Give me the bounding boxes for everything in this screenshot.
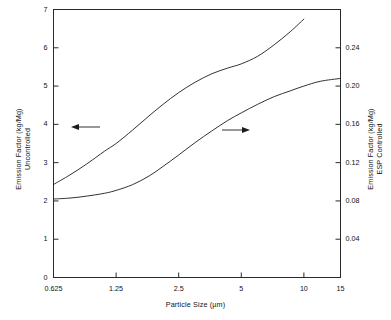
tick-label-left-0: 0 [20,273,48,282]
axes-box [54,10,341,278]
tick-label-right-4: 0.20 [346,81,360,90]
tick-label-bottom-0: 0.625 [34,284,74,293]
tick-label-bottom-4: 10 [284,284,324,293]
right-axis-ticks [336,48,341,239]
tick-label-bottom-5: 15 [321,284,361,293]
series-line-esp-controlled [54,78,341,199]
right-y-axis-title: Emission Factor (kg/Mg)ESP Controlled [366,74,384,224]
emission-factor-chart: 01234567 0.040.080.120.160.200.24 0.6251… [0,0,391,320]
series-line-uncontrolled [54,19,304,184]
tick-label-right-1: 0.08 [346,196,360,205]
tick-label-right-5: 0.24 [346,43,360,52]
tick-label-right-2: 0.12 [346,158,360,167]
tick-label-bottom-1: 1.25 [96,284,136,293]
tick-label-left-1: 1 [20,234,48,243]
tick-label-right-0: 0.04 [346,234,360,243]
bottom-axis-ticks [54,273,341,278]
left-y-axis-title: Emission Factor (kg/Mg)Uncontrolled [14,74,32,224]
tick-label-bottom-3: 5 [221,284,261,293]
uncontrolled-arrow-icon [71,124,100,130]
tick-label-left-6: 6 [20,43,48,52]
x-axis-title: Particle Size (µm) [0,300,391,309]
tick-label-left-7: 7 [20,5,48,14]
plot-frame [54,10,341,278]
tick-label-right-3: 0.16 [346,119,360,128]
tick-label-bottom-2: 2.5 [159,284,199,293]
plot-canvas [0,0,391,320]
left-axis-ticks [54,10,59,278]
esp-controlled-arrow-icon [222,127,250,133]
